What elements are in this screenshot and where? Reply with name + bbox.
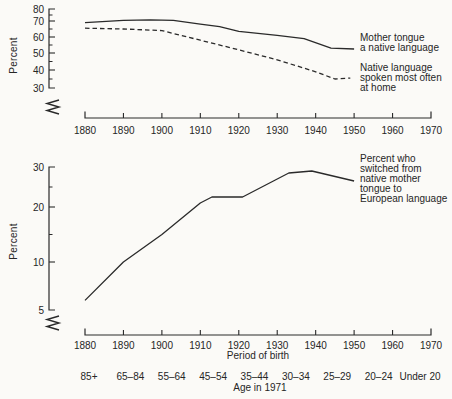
x-tick-label: 1910 (180, 125, 220, 136)
y-tick-label: 20 (18, 202, 44, 213)
legend-line: a native language (360, 42, 439, 52)
y-tick-label: 40 (18, 65, 44, 76)
y-axis-title-top: Percent (8, 36, 19, 76)
legend-switched-language: Percent who switched from native mother … (360, 153, 447, 203)
axis-break-icon (47, 316, 59, 330)
y-tick-label: 70 (18, 16, 44, 27)
x-tick-label: 1950 (334, 340, 374, 351)
secondary-x-axis-title: Age in 1971 (202, 382, 318, 393)
x-tick-label: 1930 (257, 125, 297, 136)
series-line-solid (85, 171, 354, 300)
x-tick-label: 1960 (373, 125, 413, 136)
legend-line: native mother (360, 173, 447, 183)
y-tick-label: 5 (18, 305, 44, 316)
legend-mother-tongue: Mother tongue a native language (360, 32, 439, 52)
x-tick-label: 1960 (373, 340, 413, 351)
x-tick-label: 1970 (411, 125, 451, 136)
y-tick-label: 80 (18, 4, 44, 15)
y-tick-label: 10 (18, 257, 44, 268)
legend-line: spoken most often (360, 72, 442, 82)
x-tick-label: 1890 (103, 340, 143, 351)
x-axis-title: Period of birth (200, 350, 316, 361)
axis-break-icon (47, 100, 59, 114)
legend-line: Mother tongue (360, 32, 439, 42)
series-line-dashed (85, 28, 350, 79)
legend-line: Percent who (360, 153, 447, 163)
age-tick-label: Under 20 (393, 371, 447, 382)
y-tick-label: 30 (18, 83, 44, 94)
legend-line: switched from (360, 163, 447, 173)
y-tick-label: 60 (18, 32, 44, 43)
x-tick-label: 1920 (219, 125, 259, 136)
x-tick-label: 1940 (296, 125, 336, 136)
x-tick-label: 1900 (142, 340, 182, 351)
x-tick-label: 1900 (142, 125, 182, 136)
x-tick-label: 1880 (65, 340, 105, 351)
y-axis (49, 167, 55, 310)
x-tick-label: 1880 (65, 125, 105, 136)
y-tick-label: 50 (18, 48, 44, 59)
y-axis-title-bottom: Percent (8, 222, 19, 262)
x-axis (85, 112, 431, 119)
legend-line: tongue to (360, 183, 447, 193)
legend-line: Native language (360, 62, 442, 72)
y-tick-label: 30 (18, 162, 44, 173)
x-tick-label: 1950 (334, 125, 374, 136)
legend-native-language-home: Native language spoken most often at hom… (360, 62, 442, 92)
x-tick-label: 1970 (411, 340, 451, 351)
legend-line: at home (360, 82, 442, 92)
legend-line: European language (360, 193, 447, 203)
x-tick-label: 1890 (103, 125, 143, 136)
x-axis (85, 329, 431, 336)
language-retention-figure: 8070605040301880189019001910192019301940… (0, 0, 452, 399)
